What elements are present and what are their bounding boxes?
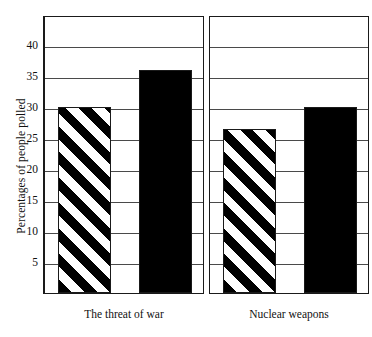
chart-panel-2 xyxy=(209,16,369,294)
bar-solid xyxy=(139,70,192,293)
y-axis-tick-label: 10 xyxy=(12,226,38,238)
bar-chart: Percentages of people polled 51015202530… xyxy=(0,0,372,337)
y-axis-tick-label: 15 xyxy=(12,195,38,207)
y-axis-tick-label: 25 xyxy=(12,133,38,145)
y-axis-tick-label: 20 xyxy=(12,164,38,176)
y-axis-tick-label: 5 xyxy=(12,257,38,269)
y-axis-tick-label: 40 xyxy=(12,40,38,52)
gridline xyxy=(45,47,203,48)
chart-panel-1 xyxy=(44,16,204,294)
category-label: The threat of war xyxy=(44,308,204,320)
bar-striped xyxy=(223,129,276,293)
bar-solid xyxy=(304,107,357,293)
gridline xyxy=(210,78,368,79)
bar-striped xyxy=(58,107,111,293)
y-axis-tick-label: 30 xyxy=(12,102,38,114)
category-label: Nuclear weapons xyxy=(209,308,369,320)
y-axis-tick-label: 35 xyxy=(12,71,38,83)
gridline xyxy=(210,47,368,48)
